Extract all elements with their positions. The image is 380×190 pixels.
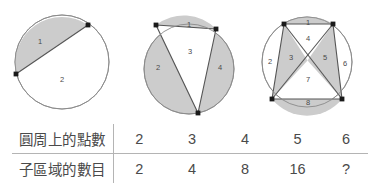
table-row-points: 圓周上的點數 2 3 4 5 6 [0,124,380,154]
point-dot [214,27,219,32]
point-dot [86,23,91,28]
region-label: 4 [218,63,222,72]
cell-regions-16: 16 [271,154,324,184]
diagram-2-points: 1 2 [14,15,109,109]
cell-points-2: 2 [113,124,165,154]
point-dot [14,72,19,77]
cell-points-3: 3 [165,124,219,154]
region-label: 8 [306,98,310,107]
region-label: 1 [306,18,310,27]
table-spacer [0,154,12,184]
region-label: 3 [188,47,192,56]
region-label: 3 [289,53,293,62]
row-header-points: 圓周上的點數 [12,124,113,154]
cell-points-5: 5 [271,124,324,154]
table-spacer [0,124,12,154]
cell-points-4: 4 [219,124,271,154]
point-dot [154,23,159,28]
cell-regions-8: 8 [219,154,271,184]
figure-page: 1 2 1 2 3 [0,0,380,190]
circle-diagrams: 1 2 1 2 3 [0,0,380,125]
region-label: 5 [323,53,327,62]
region-label: 4 [306,34,310,43]
point-dot [282,22,287,27]
table-spacer [368,124,380,154]
table-row-regions: 子區域的數目 2 4 8 16 ? [0,154,380,184]
region-label: 6 [343,59,347,68]
cell-regions-2: 2 [113,154,165,184]
diagram-3-points: 1 2 3 4 [144,15,234,115]
point-dot [340,97,345,102]
summary-table: 圓周上的點數 2 3 4 5 6 子區域的數目 2 4 8 16 ? [0,124,380,183]
region-label: 2 [156,63,160,72]
point-dot [270,97,275,102]
summary-table-area: 圓周上的點數 2 3 4 5 6 子區域的數目 2 4 8 16 ? [0,124,380,190]
region-label: 1 [38,37,42,46]
diagram-4-points: 1 2 3 4 5 6 7 8 [262,17,352,116]
cell-points-6: 6 [324,124,368,154]
region-label: 2 [268,57,272,66]
region-label: 1 [187,20,191,29]
region-label: 2 [60,75,64,84]
point-dot [331,22,336,27]
region-label: 7 [306,75,310,84]
cell-regions-4: 4 [165,154,219,184]
row-header-regions: 子區域的數目 [12,154,113,184]
cell-regions-unknown: ? [324,154,368,184]
table-spacer [368,154,380,184]
point-dot [196,111,201,116]
